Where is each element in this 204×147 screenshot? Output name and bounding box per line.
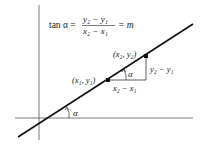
angle-triangle-label: α <box>128 69 133 79</box>
rise-label: y₂ − y₁ <box>149 64 173 74</box>
formula-rhs: = m <box>118 20 134 30</box>
formula-numerator: y₂ − y₁ <box>82 14 108 24</box>
point-2 <box>144 54 148 58</box>
run-label: x₂ − x₁ <box>112 83 136 93</box>
slope-line <box>18 24 193 137</box>
point-1 <box>106 78 110 82</box>
angle-axis-label: α <box>73 108 78 118</box>
point-1-label: (x₁, y₁) <box>72 75 96 85</box>
formula-lhs: tan α = <box>49 20 76 30</box>
formula-denominator: x₂ − x₁ <box>82 26 108 36</box>
slope-diagram: tan α = y₂ − y₁ x₂ − x₁ = m (x₁, y₁) (x₂… <box>0 0 204 147</box>
point-2-label: (x₂, y₂) <box>113 49 137 59</box>
